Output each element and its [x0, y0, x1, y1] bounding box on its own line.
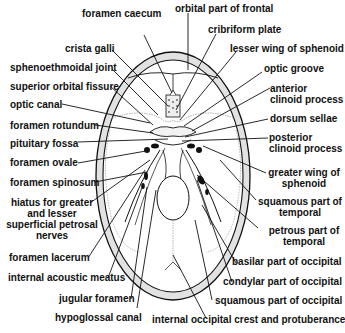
label-lesser-wing-of-sphenoid: lesser wing of sphenoid: [230, 43, 344, 54]
label-foramen-ovale: foramen ovale: [10, 157, 78, 168]
label-dorsum-sellae: dorsum sellae: [270, 113, 337, 124]
label-petrous-line-1: petrous part of: [264, 225, 344, 236]
label-foramen-rotundum: foramen rotundum: [10, 120, 99, 131]
label-anterior-line-1: anterior: [270, 83, 343, 94]
label-squamous-temporal-line-1: squamous part of: [256, 196, 344, 207]
label-jugular-foramen: jugular foramen: [59, 293, 135, 304]
label-hiatus-petrosal-nerves: hiatus for greater and lesser superficia…: [6, 197, 98, 241]
label-optic-canal: optic canal: [10, 99, 62, 110]
label-crista-galli: crista galli: [65, 43, 114, 54]
label-foramen-spinosum: foramen spinosum: [10, 177, 99, 188]
label-orbital-part-of-frontal: orbital part of frontal: [175, 3, 273, 14]
label-foramen-lacerum: foramen lacerum: [9, 252, 90, 263]
label-internal-acoustic-meatus: internal acoustic meatus: [8, 272, 125, 283]
label-petrous-line-2: temporal: [264, 236, 344, 247]
label-optic-groove: optic groove: [264, 63, 324, 74]
label-greater-wing-line-1: greater wing of: [264, 167, 344, 178]
label-posterior-clinoid-process: posterior clinoid process: [269, 132, 342, 154]
label-hiatus-line-1: hiatus for greater: [6, 197, 98, 208]
label-posterior-line-2: clinoid process: [269, 143, 342, 154]
label-hypoglossal-canal: hypoglossal canal: [55, 312, 142, 323]
label-squamous-temporal-line-2: temporal: [256, 207, 344, 218]
label-squamous-part-of-temporal: squamous part of temporal: [256, 196, 344, 218]
label-internal-occipital-crest: internal occipital crest and protuberanc…: [152, 314, 345, 325]
label-hiatus-line-4: nerves: [6, 230, 98, 241]
label-hiatus-line-3: superficial petrosal: [6, 219, 98, 230]
label-cribriform-plate: cribriform plate: [208, 24, 281, 35]
label-foramen-caecum: foramen caecum: [82, 8, 161, 19]
label-greater-wing-line-2: sphenoid: [264, 178, 344, 189]
label-condylar-part-of-occipital: condylar part of occipital: [223, 276, 342, 287]
label-superior-orbital-fissure: superior orbital fissure: [10, 81, 119, 92]
label-squamous-part-of-occipital: squamous part of occipital: [215, 295, 342, 306]
label-anterior-line-2: clinoid process: [270, 94, 343, 105]
label-hiatus-line-2: and lesser: [6, 208, 98, 219]
label-posterior-line-1: posterior: [269, 132, 342, 143]
label-petrous-part-of-temporal: petrous part of temporal: [264, 225, 344, 247]
foramen-magnum: [157, 176, 189, 220]
label-greater-wing-of-sphenoid: greater wing of sphenoid: [264, 167, 344, 189]
label-anterior-clinoid-process: anterior clinoid process: [270, 83, 343, 105]
label-basilar-part-of-occipital: basilar part of occipital: [232, 256, 341, 267]
label-sphenoethmoidal-joint: sphenoethmoidal joint: [10, 62, 117, 73]
label-pituitary-fossa: pituitary fossa: [10, 138, 78, 149]
